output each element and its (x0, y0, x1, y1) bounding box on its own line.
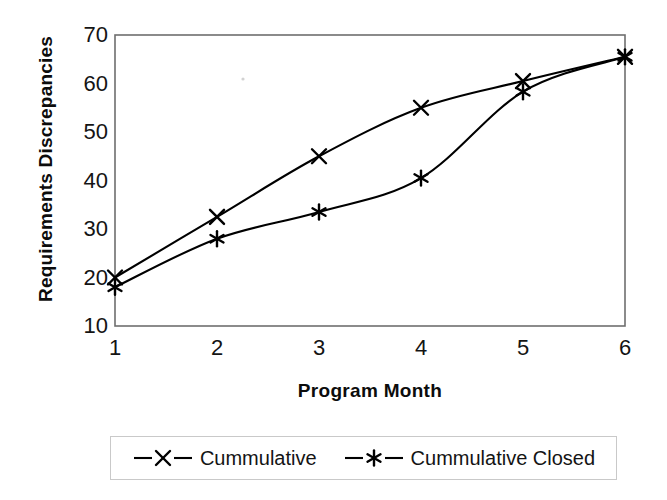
asterisk-marker (211, 231, 224, 246)
x-tick-label: 2 (197, 336, 237, 360)
asterisk-marker (415, 171, 428, 186)
legend-entry[interactable]: Cummulative (132, 447, 317, 469)
chart-legend: CummulativeCummulative Closed (110, 436, 617, 480)
legend-label: Cummulative (200, 448, 317, 468)
x-axis-tick-labels: 123456 (0, 336, 667, 368)
series-layer (115, 57, 625, 287)
legend-marker-sample (343, 447, 405, 469)
x-marker (312, 149, 326, 163)
series-line (115, 57, 625, 287)
marker-layer (108, 49, 632, 294)
x-marker (156, 451, 170, 465)
legend-label: Cummulative Closed (411, 448, 596, 468)
plot-area (0, 0, 667, 500)
series-line (115, 57, 625, 278)
asterisk-marker (367, 451, 380, 466)
x-axis-title: Program Month (115, 380, 625, 402)
scan-artifact (241, 77, 244, 80)
x-tick-label: 4 (401, 336, 441, 360)
x-marker (210, 210, 224, 224)
legend-entry[interactable]: Cummulative Closed (343, 447, 596, 469)
asterisk-marker (313, 205, 326, 220)
legend-marker-sample (132, 447, 194, 469)
x-tick-label: 3 (299, 336, 339, 360)
chart-figure: Requirements Discrepancies 7060504030201… (0, 0, 667, 500)
x-tick-label: 1 (95, 336, 135, 360)
x-tick-label: 6 (605, 336, 645, 360)
x-marker (414, 101, 428, 115)
x-tick-label: 5 (503, 336, 543, 360)
